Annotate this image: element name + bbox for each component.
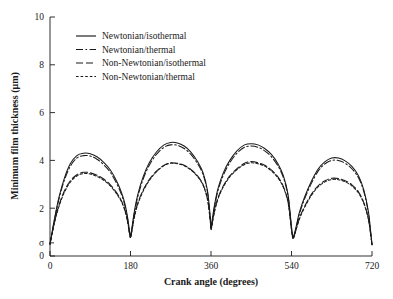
x-axis-ticks: 0180360540720 [48, 251, 380, 271]
legend-label: Newtonian/isothermal [102, 31, 187, 41]
sigma-annotation: σ [39, 238, 54, 248]
x-tick-label: 360 [204, 261, 219, 271]
x-tick-label: 180 [123, 261, 138, 271]
series-line [50, 163, 372, 245]
series-line [50, 162, 372, 245]
legend-label: Non-Newtonian/thermal [102, 72, 195, 82]
y-axis-title: Minimum film thickness (μm) [9, 72, 21, 200]
y-tick-label: 6 [39, 108, 44, 118]
y-tick-label: 0 [39, 251, 44, 261]
y-tick-label: 10 [35, 12, 45, 22]
y-tick-label: 2 [39, 204, 44, 214]
chart-legend: Newtonian/isothermalNewtonian/thermalNon… [76, 31, 206, 82]
legend-label: Non-Newtonian/isothermal [102, 58, 206, 68]
chart-figure: 0246810 0180360540720 σ Crank angle (deg… [0, 0, 393, 299]
legend-label: Newtonian/thermal [102, 45, 176, 55]
x-tick-label: 0 [48, 261, 53, 271]
x-axis-title: Crank angle (degrees) [164, 276, 258, 288]
minimum-film-thickness-chart: 0246810 0180360540720 σ Crank angle (deg… [0, 0, 393, 299]
axis-frame [50, 17, 372, 256]
data-curves [50, 142, 372, 245]
y-tick-label: 4 [39, 156, 44, 166]
x-tick-label: 540 [284, 261, 299, 271]
y-axis-ticks: 0246810 [35, 12, 56, 261]
y-tick-label: 8 [39, 60, 44, 70]
sigma-label: σ [39, 238, 44, 248]
x-tick-label: 720 [365, 261, 380, 271]
